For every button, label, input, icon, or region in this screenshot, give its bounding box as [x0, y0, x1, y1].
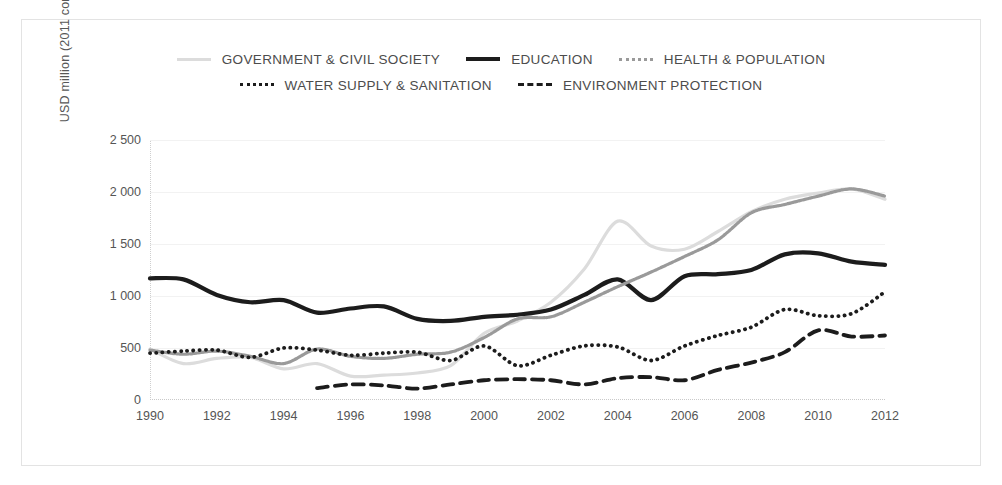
legend-swatch-environment-line-icon: [518, 80, 552, 90]
x-tick-label: 2008: [737, 409, 765, 423]
x-tick-label: 1990: [136, 409, 164, 423]
legend-label-environment: ENVIRONMENT PROTECTION: [563, 78, 762, 93]
legend-label-education: EDUCATION: [511, 52, 593, 67]
y-tick-label: 1 000: [110, 289, 141, 303]
x-tick-label: 1992: [203, 409, 231, 423]
x-tick-label: 1998: [403, 409, 431, 423]
legend-swatch-water-line-icon: [240, 80, 274, 90]
y-axis-title: USD million (2011 constant prices): [56, 0, 74, 148]
x-tick-label: 2002: [537, 409, 565, 423]
legend-swatch-government-line-icon: [177, 54, 211, 64]
legend-item-water[interactable]: WATER SUPPLY & SANITATION: [240, 78, 492, 93]
chart-figure: GOVERNMENT & CIVIL SOCIETY EDUCATION HEA…: [0, 0, 1002, 485]
x-tick-label: 1994: [270, 409, 298, 423]
series-line-government: [150, 189, 885, 377]
x-tick-label: 2006: [671, 409, 699, 423]
x-tick-label: 2010: [804, 409, 832, 423]
y-tick-label: 500: [120, 341, 141, 355]
chart-legend: GOVERNMENT & CIVIL SOCIETY EDUCATION HEA…: [0, 46, 1002, 98]
legend-label-government: GOVERNMENT & CIVIL SOCIETY: [222, 52, 440, 67]
y-tick-label: 1 500: [110, 237, 141, 251]
x-tick-label: 2000: [470, 409, 498, 423]
x-tick-label: 2004: [604, 409, 632, 423]
legend-item-government[interactable]: GOVERNMENT & CIVIL SOCIETY: [177, 52, 440, 67]
legend-item-environment[interactable]: ENVIRONMENT PROTECTION: [518, 78, 762, 93]
legend-row-2: WATER SUPPLY & SANITATION ENVIRONMENT PR…: [0, 72, 1002, 98]
y-tick-label: 0: [134, 393, 141, 407]
legend-swatch-health-line-icon: [619, 54, 653, 64]
x-tick-label: 2012: [871, 409, 899, 423]
legend-item-education[interactable]: EDUCATION: [466, 52, 593, 67]
y-tick-label: 2 500: [110, 133, 141, 147]
series-line-health: [150, 189, 885, 364]
legend-label-health: HEALTH & POPULATION: [664, 52, 825, 67]
series-line-education: [150, 252, 885, 321]
legend-label-water: WATER SUPPLY & SANITATION: [285, 78, 492, 93]
x-tick-label: 1996: [337, 409, 365, 423]
plot-area: 05001 0001 5002 0002 500 199019921994199…: [150, 140, 885, 400]
series-line-environment: [317, 330, 885, 389]
legend-item-health[interactable]: HEALTH & POPULATION: [619, 52, 825, 67]
series-lines: [150, 140, 885, 400]
y-tick-label: 2 000: [110, 185, 141, 199]
legend-swatch-education-line-icon: [466, 54, 500, 64]
legend-row-1: GOVERNMENT & CIVIL SOCIETY EDUCATION HEA…: [0, 46, 1002, 72]
